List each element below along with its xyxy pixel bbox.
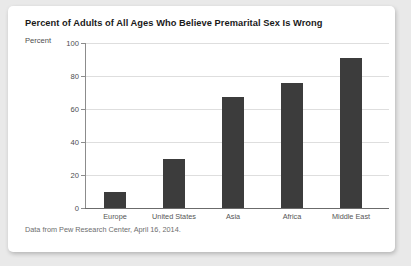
chart-card: Percent of Adults of All Ages Who Believ… [8, 6, 395, 252]
y-tick-mark-100 [81, 43, 85, 44]
plot-area: Europe United States Asia Africa Middle … [85, 43, 389, 208]
bar-europe [104, 192, 126, 209]
bar-africa [281, 83, 303, 208]
y-tick-mark-40 [81, 142, 85, 143]
y-tick-mark-80 [81, 76, 85, 77]
y-axis-line [85, 43, 86, 208]
y-tick-label-20: 20 [71, 171, 79, 180]
y-tick-label-100: 100 [66, 39, 79, 48]
y-axis-title: Percent [25, 36, 51, 45]
y-tick-mark-60 [81, 109, 85, 110]
y-axis-tick-labels: 100 80 60 40 20 0 [49, 43, 79, 208]
bar-asia [222, 97, 244, 208]
source-caption: Data from Pew Research Center, April 16,… [25, 225, 181, 234]
x-tick-label-middle-east: Middle East [332, 212, 370, 221]
chart-title: Percent of Adults of All Ages Who Believ… [25, 18, 323, 28]
y-tick-label-0: 0 [75, 204, 79, 213]
y-tick-mark-20 [81, 175, 85, 176]
bar-middle-east [340, 58, 362, 208]
x-axis-line [85, 208, 389, 209]
bar-united-states [163, 159, 185, 209]
y-tick-mark-0 [81, 208, 85, 209]
x-tick-label-united-states: United States [152, 212, 196, 221]
gridline-100 [85, 43, 389, 44]
x-tick-label-asia: Asia [226, 212, 240, 221]
y-tick-label-40: 40 [71, 138, 79, 147]
x-tick-label-europe: Europe [103, 212, 127, 221]
x-tick-label-africa: Africa [283, 212, 302, 221]
y-tick-label-80: 80 [71, 72, 79, 81]
y-tick-label-60: 60 [71, 105, 79, 114]
